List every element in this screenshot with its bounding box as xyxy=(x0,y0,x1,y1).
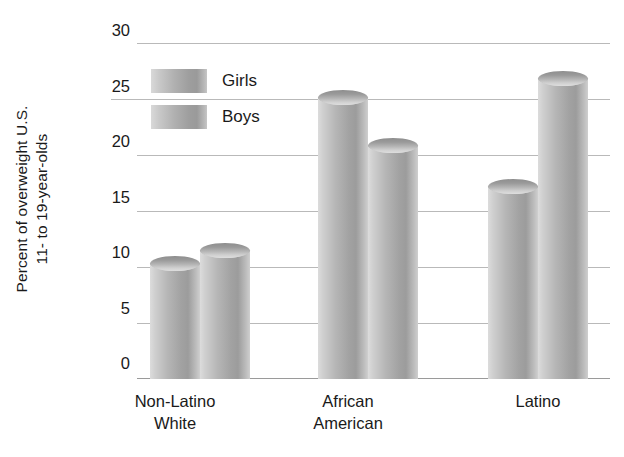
bar-cap xyxy=(488,179,538,194)
bar-cap xyxy=(368,138,418,153)
bar-latino-boys xyxy=(538,71,588,379)
y-tick-label-10: 10 xyxy=(96,243,130,262)
y-tick-label-0: 0 xyxy=(96,354,130,373)
bar-latino-girls xyxy=(488,179,538,379)
bar-body xyxy=(200,250,250,379)
y-axis-title-line-1: Percent of overweight U.S. xyxy=(12,106,32,293)
x-category-line-2: American xyxy=(288,413,408,435)
legend-swatch-boys xyxy=(151,105,207,129)
legend-label-boys: Boys xyxy=(222,107,260,127)
bar-cap xyxy=(318,90,368,105)
legend-swatch-girls xyxy=(151,69,207,93)
x-category-label-african-american: African American xyxy=(288,391,408,435)
x-category-label-non-latino-white: Non-Latino White xyxy=(110,391,240,435)
y-axis-title-line-2: 11- to 19-year-olds xyxy=(32,134,52,265)
gridline-30 xyxy=(137,43,610,44)
x-category-line-1: Latino xyxy=(478,391,598,413)
y-tick-stub-25 xyxy=(111,99,137,100)
bar-body xyxy=(318,97,368,379)
bar-african-american-boys xyxy=(368,138,418,379)
plot-area xyxy=(137,43,610,379)
x-category-line-1: Non-Latino xyxy=(110,391,240,413)
chart-figure: Percent of overweight U.S. 11- to 19-yea… xyxy=(0,0,624,457)
bar-cap xyxy=(538,71,588,86)
y-tick-label-30: 30 xyxy=(96,21,130,40)
bar-african-american-girls xyxy=(318,90,368,379)
bar-non-latino-white-girls xyxy=(150,256,200,379)
bar-cap xyxy=(150,256,200,271)
bar-body xyxy=(150,263,200,379)
y-tick-label-15: 15 xyxy=(96,188,130,207)
x-category-line-1: African xyxy=(288,391,408,413)
bar-cap xyxy=(200,243,250,258)
y-axis-title: Percent of overweight U.S. 11- to 19-yea… xyxy=(0,0,62,400)
bar-non-latino-white-boys xyxy=(200,243,250,379)
x-category-label-latino: Latino xyxy=(478,391,598,413)
bar-body xyxy=(488,186,538,379)
legend-label-girls: Girls xyxy=(222,71,257,91)
bar-body xyxy=(538,78,588,379)
bar-body xyxy=(368,145,418,379)
y-tick-label-20: 20 xyxy=(96,132,130,151)
y-tick-label-25: 25 xyxy=(96,77,130,96)
y-tick-label-5: 5 xyxy=(96,299,130,318)
x-category-line-2: White xyxy=(110,413,240,435)
